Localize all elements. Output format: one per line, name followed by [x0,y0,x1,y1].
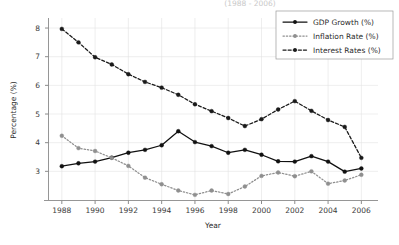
data-point [343,179,347,183]
x-tick-label: 2002 [285,206,304,215]
x-tick-label: 1992 [119,206,138,215]
data-point [193,140,197,144]
chart-figure: (1988 - 2006) 19881990199219941996199820… [0,0,399,245]
y-tick-label: 4 [35,138,40,147]
data-point [326,160,330,164]
data-point [260,117,264,121]
chart-legend[interactable]: GDP Growth (%)Inflation Rate (%)Interest… [276,11,393,59]
chart-title: (1988 - 2006) [224,0,276,8]
data-point [243,124,247,128]
data-point [210,189,214,193]
data-point [343,170,347,174]
data-point [160,182,164,186]
data-point [276,159,280,163]
data-point [359,156,363,160]
data-point [326,118,330,122]
data-point [77,146,81,150]
y-tick-label: 5 [35,110,40,119]
y-tick-label: 3 [35,167,40,176]
data-point [60,164,64,168]
data-point [243,185,247,189]
x-tick-label: 1990 [86,206,105,215]
data-point [226,192,230,196]
x-tick-label: 2004 [319,206,338,215]
legend-label: Inflation Rate (%) [313,32,379,41]
data-point [243,148,247,152]
data-point [309,154,313,158]
data-point [93,55,97,59]
data-point [359,173,363,177]
data-point [293,99,297,103]
data-point [110,156,114,160]
data-point [176,189,180,193]
legend-marker [293,34,297,38]
y-tick-label: 8 [35,24,40,33]
data-point [126,164,130,168]
data-point [309,169,313,173]
data-point [343,125,347,129]
data-point [60,27,64,31]
data-point [60,134,64,138]
data-point [143,80,147,84]
data-point [226,151,230,155]
data-point [93,149,97,153]
data-point [226,116,230,120]
legend-label: Interest Rates (%) [313,46,381,55]
data-point [93,160,97,164]
data-point [77,161,81,165]
data-point [176,129,180,133]
line-chart: (1988 - 2006) 19881990199219941996199820… [0,0,399,245]
data-point [326,182,330,186]
data-point [176,93,180,97]
data-point [293,160,297,164]
y-axis-title: Percentage (%) [9,81,18,139]
data-point [359,167,363,171]
y-tick-label: 7 [35,52,40,61]
data-point [143,176,147,180]
data-point [293,174,297,178]
x-tick-label: 2006 [352,206,371,215]
x-tick-label: 1998 [219,206,238,215]
data-point [110,62,114,66]
data-point [160,86,164,90]
data-point [77,40,81,44]
data-point [160,143,164,147]
y-tick-label: 6 [35,81,40,90]
data-point [210,144,214,148]
data-point [126,151,130,155]
x-axis-title: Year [204,221,222,230]
legend-marker [293,20,297,24]
data-point [126,72,130,76]
legend-marker [293,48,297,52]
data-point [193,193,197,197]
data-point [276,107,280,111]
data-point [309,109,313,113]
data-point [210,109,214,113]
x-tick-label: 1996 [185,206,204,215]
data-point [260,153,264,157]
data-point [260,174,264,178]
data-point [143,148,147,152]
x-tick-label: 2000 [252,206,271,215]
x-tick-label: 1994 [152,206,171,215]
data-point [276,171,280,175]
data-point [193,102,197,106]
x-tick-label: 1988 [52,206,71,215]
legend-label: GDP Growth (%) [313,18,374,27]
